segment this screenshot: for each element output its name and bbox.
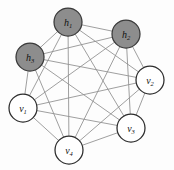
graph-node-v3[interactable]: v3: [117, 114, 145, 142]
node-layer: h1h2h3v1v2v3v4: [9, 8, 164, 164]
graph-edge-h3-v2: [44, 60, 137, 78]
graph-canvas: h1h2h3v1v2v3v4: [0, 0, 174, 170]
graph-node-v2[interactable]: v2: [136, 66, 164, 94]
boltzmann-machine-figure: h1h2h3v1v2v3v4: [0, 0, 174, 170]
graph-node-v1[interactable]: v1: [9, 94, 37, 122]
graph-edge-h1-h2: [82, 25, 113, 31]
graph-edge-v1-v3: [37, 111, 117, 126]
graph-edge-v2-v3: [136, 93, 145, 115]
node-label-subscript-v3: 3: [131, 128, 136, 135]
graph-edge-h1-h3: [40, 31, 57, 47]
graph-edge-h3-v4: [35, 70, 63, 137]
graph-edge-h2-v3: [127, 48, 131, 114]
graph-edge-v1-v2: [37, 83, 137, 105]
graph-node-h2[interactable]: h2: [112, 20, 140, 48]
graph-edge-h1-v4: [68, 36, 69, 136]
graph-edge-h2-v2: [132, 46, 143, 67]
graph-edge-v1-v4: [33, 117, 58, 140]
graph-node-v4[interactable]: v4: [55, 136, 83, 164]
graph-edge-h1-v3: [75, 34, 124, 116]
node-label-subscript-v1: 1: [24, 108, 27, 115]
graph-node-h1[interactable]: h1: [54, 8, 82, 36]
graph-node-h3[interactable]: h3: [16, 43, 44, 71]
node-label-subscript-h1: 1: [69, 22, 72, 29]
graph-edge-v3-v4: [82, 133, 118, 146]
graph-edge-h3-v1: [25, 71, 28, 94]
